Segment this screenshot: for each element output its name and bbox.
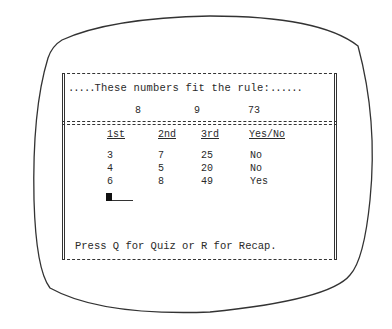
- table-cell: 5: [158, 163, 164, 174]
- column-header-yes-no: Yes/No: [249, 129, 285, 140]
- table-cell: No: [250, 163, 262, 174]
- rule-heading: .....These numbers fit the rule:......: [68, 82, 302, 94]
- table-cell: 8: [158, 176, 164, 187]
- rule-title: These numbers fit the rule:: [95, 82, 271, 94]
- quiz-recap-prompt: Press Q for Quiz or R for Recap.: [75, 240, 277, 252]
- example-value-1: 8: [135, 105, 141, 116]
- column-header-2nd: 2nd: [158, 129, 176, 140]
- table-cell: 4: [107, 163, 113, 174]
- input-field-underline[interactable]: [112, 200, 133, 201]
- table-cell: 7: [158, 150, 164, 161]
- example-value-3: 73: [248, 105, 260, 116]
- leading-dots: .....: [68, 82, 95, 94]
- table-cell: No: [250, 150, 262, 161]
- table-cell: 49: [201, 176, 213, 187]
- trailing-dots: ......: [270, 82, 302, 94]
- table-cell: 3: [107, 150, 113, 161]
- column-header-3rd: 3rd: [201, 129, 219, 140]
- table-cell: 6: [107, 176, 113, 187]
- table-cell: Yes: [250, 176, 268, 187]
- table-cell: 20: [201, 163, 213, 174]
- column-header-1st: 1st: [107, 129, 125, 140]
- example-value-2: 9: [194, 105, 200, 116]
- table-cell: 25: [201, 150, 213, 161]
